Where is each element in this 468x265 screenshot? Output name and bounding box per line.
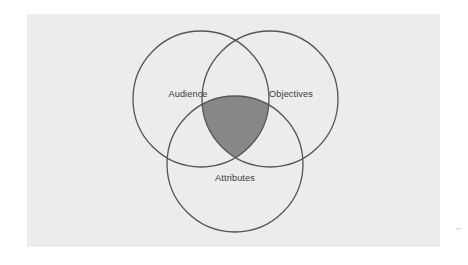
label-audience: Audience xyxy=(168,89,207,99)
label-objectives: Objectives xyxy=(269,89,313,99)
label-attributes: Attributes xyxy=(215,173,255,183)
venn-diagram-canvas: Audience Objectives Attributes xyxy=(0,0,468,265)
scan-artifact-mark xyxy=(456,228,461,229)
venn-diagram-figure: Audience Objectives Attributes xyxy=(0,0,468,265)
